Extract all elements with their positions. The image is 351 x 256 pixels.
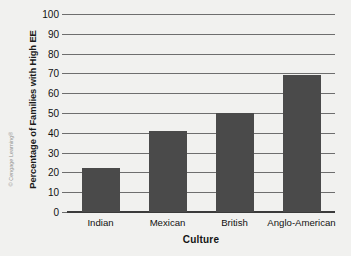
y-axis-tick	[62, 133, 67, 134]
copyright-credit: © Cengage Learning®	[8, 120, 14, 198]
bar-chart-figure: © Cengage Learning® Percentage of Famili…	[0, 0, 351, 256]
y-axis-tick	[62, 14, 67, 15]
bar	[216, 113, 254, 212]
y-axis-tick	[62, 192, 67, 193]
bar	[283, 75, 321, 212]
y-axis-tick	[62, 153, 67, 154]
y-axis-tick-label: 40	[48, 127, 59, 138]
y-axis-tick-label: 80	[48, 48, 59, 59]
gridline	[67, 73, 335, 74]
y-axis-tick	[62, 212, 67, 213]
y-axis-tick	[62, 54, 67, 55]
y-axis-tick-label: 70	[48, 68, 59, 79]
y-axis-tick	[62, 73, 67, 74]
y-axis-tick	[62, 34, 67, 35]
gridline	[67, 34, 335, 35]
y-axis-tick-label: 50	[48, 108, 59, 119]
bar	[82, 168, 120, 212]
y-axis-tick-label: 30	[48, 147, 59, 158]
x-axis-title: Culture	[67, 234, 335, 245]
y-axis-tick	[62, 113, 67, 114]
y-axis-tick-label: 60	[48, 88, 59, 99]
bar	[149, 131, 187, 212]
x-axis-tick-label: Indian	[87, 217, 113, 228]
x-axis-tick-label: Mexican	[150, 217, 186, 228]
y-axis-tick-label: 90	[48, 28, 59, 39]
y-axis-tick	[62, 93, 67, 94]
y-axis-tick-label: 10	[48, 187, 59, 198]
plot-area: 0102030405060708090100IndianMexicanBriti…	[67, 14, 335, 212]
y-axis-tick-label: 20	[48, 167, 59, 178]
gridline	[67, 54, 335, 55]
y-axis-tick	[62, 172, 67, 173]
y-axis-tick-label: 0	[53, 207, 59, 218]
x-axis-tick-label: British	[221, 217, 248, 228]
y-axis-title: Percentage of Families with High EE	[27, 10, 38, 210]
x-axis-tick-label: Anglo-American	[267, 217, 335, 228]
gridline	[67, 14, 335, 15]
y-axis-tick-label: 100	[42, 9, 59, 20]
